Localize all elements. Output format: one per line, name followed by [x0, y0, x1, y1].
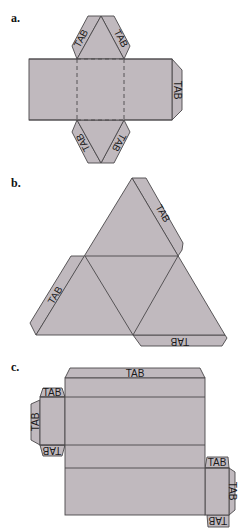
face-c-main-rect: [65, 378, 205, 515]
face-b-outer-triangle: [36, 178, 225, 335]
tab-label: TAB: [208, 457, 227, 468]
net-a: a. TAB TAB TAB TAB TAB: [11, 11, 183, 163]
tab-label: TAB: [42, 445, 61, 456]
net-c: c. TAB TAB TAB TAB TAB TAB TAB: [11, 360, 238, 527]
tab-label: TAB: [30, 412, 41, 431]
face-c-left-end: [40, 397, 65, 445]
tab-label: TAB: [126, 368, 145, 379]
net-b: b. TAB TAB TAB: [11, 176, 227, 347]
face-c-right-end: [205, 468, 229, 515]
label-c: c.: [11, 360, 19, 374]
face-a-main-rect: [29, 59, 172, 120]
nets-diagram: a. TAB TAB TAB TAB TAB b.: [0, 0, 238, 529]
label-b: b.: [11, 176, 21, 190]
tab-label: TAB: [43, 387, 62, 398]
tab-label: TAB: [208, 515, 227, 526]
tab-label: TAB: [227, 482, 238, 501]
tab-label: TAB: [172, 81, 183, 100]
label-a: a.: [11, 11, 20, 25]
tab-label: TAB: [170, 336, 189, 347]
